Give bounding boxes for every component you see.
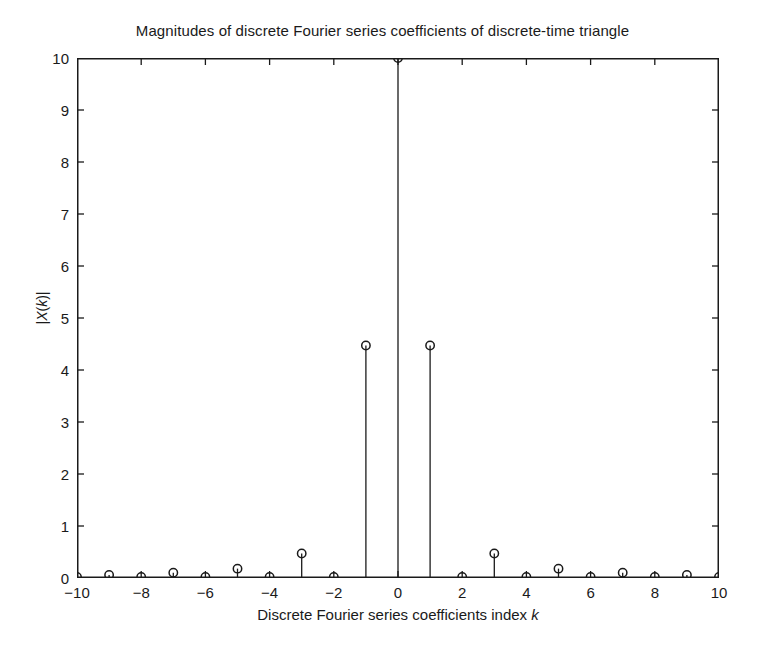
x-tick-label: 4 xyxy=(522,584,530,601)
y-axis-label-symbol-x: X xyxy=(34,312,50,321)
x-tick-label: −4 xyxy=(261,584,278,601)
plot-area: 012345678910 −10−8−6−4−20246810 xyxy=(77,58,719,578)
x-tick-label: 8 xyxy=(651,584,659,601)
y-axis-label-suffix: )| xyxy=(34,292,50,300)
y-axis-label-prefix: | xyxy=(34,321,50,325)
stem-point xyxy=(233,564,241,578)
figure-canvas: Magnitudes of discrete Fourier series co… xyxy=(0,0,765,648)
x-axis-label-text: Discrete Fourier series coefficients ind… xyxy=(257,606,531,623)
stem-point xyxy=(426,341,434,578)
x-tick-label: −6 xyxy=(197,584,214,601)
stem-series xyxy=(77,58,719,578)
stem-plot-svg xyxy=(77,58,719,578)
y-tick-label: 1 xyxy=(31,518,69,535)
y-tick-label: 3 xyxy=(31,414,69,431)
y-tick-label: 9 xyxy=(31,102,69,119)
y-axis-label-symbol-k: k xyxy=(34,300,50,307)
x-tick-label: −10 xyxy=(64,584,89,601)
x-tick-label: 6 xyxy=(586,584,594,601)
x-tick-label: −8 xyxy=(133,584,150,601)
x-axis-label-symbol: k xyxy=(531,606,539,623)
stem-point xyxy=(554,564,562,578)
chart-title: Magnitudes of discrete Fourier series co… xyxy=(0,22,765,39)
x-tick-label: 0 xyxy=(394,584,402,601)
stem-point xyxy=(298,549,306,578)
x-tick-label: 2 xyxy=(458,584,466,601)
y-tick-label: 8 xyxy=(31,154,69,171)
y-axis-label: |X(k)| xyxy=(34,248,50,368)
x-tick-label: 10 xyxy=(711,584,728,601)
stem-point xyxy=(394,58,402,578)
x-axis-label: Discrete Fourier series coefficients ind… xyxy=(77,606,719,623)
y-tick-label: 10 xyxy=(31,50,69,67)
y-tick-label: 2 xyxy=(31,466,69,483)
y-tick-label: 7 xyxy=(31,206,69,223)
x-tick-label: −2 xyxy=(325,584,342,601)
stem-point xyxy=(490,549,498,578)
stem-point xyxy=(362,341,370,578)
y-axis-label-open-paren: ( xyxy=(34,307,50,312)
